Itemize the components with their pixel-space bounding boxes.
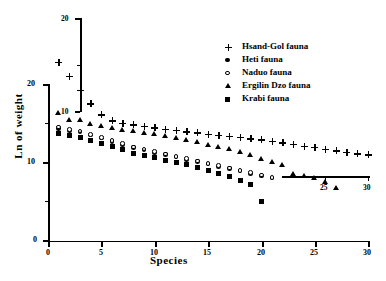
data-point [258,136,265,143]
circle-open-icon [224,69,234,77]
data-point [215,132,222,139]
data-point [98,123,104,128]
data-point [195,165,200,170]
data-point [206,161,211,166]
data-point [248,170,253,175]
data-point [194,139,200,144]
data-point [227,166,232,171]
data-point [237,149,243,154]
data-point [173,135,179,140]
data-point [151,131,157,136]
data-point [67,127,72,132]
data-point [87,121,93,126]
data-point [279,162,285,167]
data-point [354,150,361,157]
data-point [270,175,275,180]
data-point [131,145,136,150]
data-point [131,151,136,156]
data-point [206,168,211,173]
data-point [88,138,93,143]
data-point [174,160,179,165]
data-point [248,182,253,187]
data-point [216,163,221,168]
legend-item-label: Naduo fauna [242,66,292,78]
data-point [141,130,147,135]
data-point [247,152,253,157]
data-point [311,144,318,151]
data-point [109,117,116,124]
marker-glyph [225,83,231,88]
data-point [205,131,212,138]
data-point [290,171,296,176]
data-point [184,156,189,161]
data-point [66,73,73,80]
data-point [279,139,286,146]
data-point [151,124,158,131]
data-point [141,123,148,130]
data-point [226,146,232,151]
data-point [77,87,84,94]
data-point [109,125,115,130]
chart-figure: 20 10 0 0 5 10 15 20 25 30 Ln of weight … [0,0,386,281]
data-point [77,117,83,122]
triangle-icon [224,82,234,90]
data-point [226,133,233,140]
data-point [301,143,308,150]
data-point [99,141,104,146]
data-point [55,110,61,115]
data-point [322,146,329,153]
data-point [130,121,137,128]
data-point [130,128,136,133]
data-point [301,173,307,178]
data-point [259,173,264,178]
data-point [343,149,350,156]
data-point [162,126,169,133]
data-point [110,144,115,149]
data-point [333,185,339,190]
data-point [269,138,276,145]
square-icon [224,95,234,103]
marker-glyph [225,97,230,102]
data-point [120,141,125,146]
data-point [183,137,189,142]
marker-glyph [225,58,230,63]
data-point [238,168,243,173]
plot-area [0,0,386,281]
data-point [120,147,125,152]
data-point [215,144,221,149]
legend-item-label: Heti fauna [242,53,283,65]
data-point [365,151,372,158]
data-point [87,100,94,107]
data-point [162,133,168,138]
data-point [66,117,72,122]
data-point [258,156,264,161]
marker-glyph [225,71,230,76]
data-point [322,179,328,184]
data-point [56,131,61,136]
data-point [119,127,125,132]
data-point [311,175,317,180]
legend-item-label: Ergilin Dzo fauna [242,79,311,91]
data-point [290,141,297,148]
data-point [269,159,275,164]
data-point [119,120,126,127]
data-point [216,171,221,176]
data-point [98,111,105,118]
marker-glyph [225,44,232,51]
data-point [247,135,254,142]
data-point [194,129,201,136]
data-point [195,159,200,164]
data-point [183,128,190,135]
data-point [163,152,168,157]
data-point [152,155,157,160]
legend-item-label: Hsand-Gol fauna [242,40,308,52]
data-point [237,134,244,141]
data-point [238,178,243,183]
data-point [88,132,93,137]
data-point [67,133,72,138]
data-point [152,149,157,154]
data-point [55,59,62,66]
data-point [333,147,340,154]
circle-filled-icon [224,56,234,64]
data-point [259,199,264,204]
